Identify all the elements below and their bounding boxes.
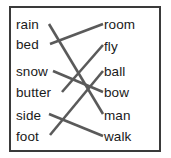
word-item-ball[interactable]: ball xyxy=(104,65,125,79)
word-item-foot[interactable]: foot xyxy=(16,130,39,144)
word-item-butter[interactable]: butter xyxy=(16,86,51,100)
matching-exercise: rain bed snow butter side foot room fly … xyxy=(0,0,171,158)
first-word-column: rain bed snow butter side foot xyxy=(16,0,78,158)
second-word-column: room fly ball bow man walk xyxy=(104,0,166,158)
word-item-man[interactable]: man xyxy=(104,109,131,123)
word-item-side[interactable]: side xyxy=(16,109,41,123)
word-item-snow[interactable]: snow xyxy=(16,65,48,79)
word-item-room[interactable]: room xyxy=(104,18,135,32)
word-item-walk[interactable]: walk xyxy=(104,130,131,144)
word-item-bed[interactable]: bed xyxy=(16,38,39,52)
word-item-fly[interactable]: fly xyxy=(104,40,118,54)
word-item-bow[interactable]: bow xyxy=(104,86,129,100)
word-item-rain[interactable]: rain xyxy=(16,18,39,32)
